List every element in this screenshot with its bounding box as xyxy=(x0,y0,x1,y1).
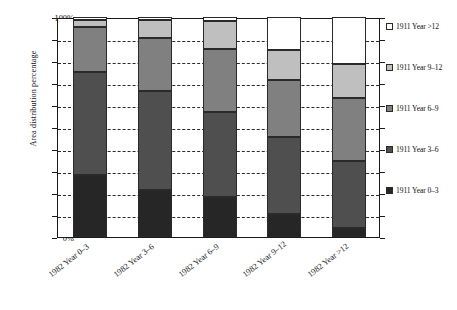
y-tick-mark xyxy=(380,40,385,41)
y-tick-mark xyxy=(380,150,385,151)
x-tick-label: 1982 Year 9–12 xyxy=(241,239,288,279)
bar-segment[interactable] xyxy=(267,50,301,80)
stacked-bar[interactable] xyxy=(73,19,107,237)
bar-segment[interactable] xyxy=(267,17,301,50)
bar-segment[interactable] xyxy=(332,98,366,161)
bar-segment[interactable] xyxy=(138,17,172,20)
bar-segment[interactable] xyxy=(267,80,301,137)
bar-segment[interactable] xyxy=(138,91,172,190)
y-tick-mark xyxy=(380,128,385,129)
x-tick-label: 1982 Year 3–6 xyxy=(112,242,156,279)
legend-item[interactable]: 1911 Year 3–6 xyxy=(386,145,439,154)
bar-segment[interactable] xyxy=(203,49,237,112)
bar-segment[interactable] xyxy=(267,214,301,237)
stacked-bar[interactable] xyxy=(138,19,172,237)
x-tick-label: 1982 Year 0–3 xyxy=(47,242,91,279)
legend-label: 1911 Year 9–12 xyxy=(396,63,442,72)
legend-label: 1911 Year 0–3 xyxy=(396,186,439,195)
bar-segment[interactable] xyxy=(138,38,172,91)
bar-segment[interactable] xyxy=(332,161,366,228)
legend-item[interactable]: 1911 Year 0–3 xyxy=(386,186,439,195)
legend-item[interactable]: 1911 Year 9–12 xyxy=(386,63,442,72)
bar-segment[interactable] xyxy=(332,17,366,64)
legend-label: 1911 Year 3–6 xyxy=(396,145,439,154)
y-tick-mark xyxy=(380,172,385,173)
legend-item[interactable]: 1911 Year >12 xyxy=(386,22,439,31)
plot-area xyxy=(57,18,380,238)
bar-segment[interactable] xyxy=(73,20,107,27)
y-tick-mark xyxy=(380,18,385,19)
stacked-bar[interactable] xyxy=(203,19,237,237)
bar-segment[interactable] xyxy=(267,137,301,214)
bar-segment[interactable] xyxy=(203,21,237,49)
stacked-bar[interactable] xyxy=(267,19,301,237)
bar-segment[interactable] xyxy=(203,17,237,21)
bar-segment[interactable] xyxy=(332,228,366,237)
y-tick-mark xyxy=(380,62,385,63)
y-tick-mark xyxy=(380,194,385,195)
legend-swatch-icon xyxy=(386,187,393,194)
bar-segment[interactable] xyxy=(138,20,172,38)
bar-segment[interactable] xyxy=(203,112,237,198)
bar-segment[interactable] xyxy=(332,64,366,98)
bar-segment[interactable] xyxy=(73,72,107,175)
y-tick-mark xyxy=(380,106,385,107)
legend-swatch-icon xyxy=(386,105,393,112)
y-axis-title: Area distribution percentage xyxy=(29,4,38,194)
stacked-bar[interactable] xyxy=(332,19,366,237)
legend-label: 1911 Year >12 xyxy=(396,22,439,31)
legend-item[interactable]: 1911 Year 6–9 xyxy=(386,104,439,113)
bar-segment[interactable] xyxy=(73,175,107,237)
y-tick-mark xyxy=(380,238,385,239)
legend-swatch-icon xyxy=(386,64,393,71)
y-tick-mark xyxy=(380,216,385,217)
bar-segment[interactable] xyxy=(73,17,107,20)
y-tick-mark xyxy=(380,84,385,85)
legend-swatch-icon xyxy=(386,23,393,30)
x-tick-label: 1982 Year >12 xyxy=(306,242,350,279)
bar-segment[interactable] xyxy=(73,27,107,72)
bar-segment[interactable] xyxy=(203,197,237,237)
x-tick-label: 1982 Year 6–9 xyxy=(177,242,221,279)
stacked-bar-chart: Area distribution percentage 0%10%20%30%… xyxy=(0,0,457,310)
legend-label: 1911 Year 6–9 xyxy=(396,104,439,113)
y-tick-mark xyxy=(52,238,57,239)
legend-swatch-icon xyxy=(386,146,393,153)
bar-segment[interactable] xyxy=(138,190,172,237)
